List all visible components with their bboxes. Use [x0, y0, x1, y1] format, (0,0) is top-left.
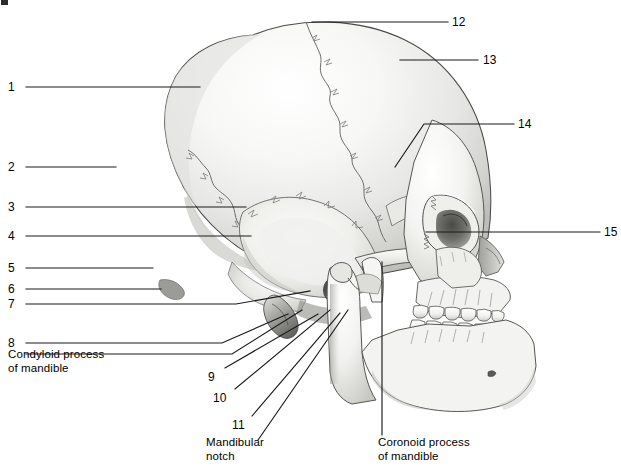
label-7[interactable]: 7 [8, 298, 15, 312]
coronoid-process-label: Coronoid processof mandible [378, 436, 470, 463]
condyloid-process-label: Condyloid processof mandible [8, 348, 104, 375]
label-1[interactable]: 1 [8, 81, 15, 95]
mandibular-notch-label-line-2: notch [206, 450, 264, 464]
label-5[interactable]: 5 [8, 262, 15, 276]
label-12[interactable]: 12 [452, 16, 466, 30]
skull-labeling-figure: 123456789101112131415Condyloid processof… [0, 0, 621, 473]
condyloid-process-label-line-1: Condyloid process [8, 348, 104, 362]
mandibular-notch-label-line-1: Mandibular [206, 436, 264, 450]
condyloid-process-label-line-2: of mandible [8, 362, 104, 376]
label-15[interactable]: 15 [604, 226, 618, 240]
label-2[interactable]: 2 [8, 161, 15, 175]
label-14[interactable]: 14 [518, 118, 532, 132]
label-11[interactable]: 11 [232, 419, 245, 433]
label-6[interactable]: 6 [8, 283, 15, 297]
label-3[interactable]: 3 [8, 201, 15, 215]
label-13[interactable]: 13 [483, 54, 497, 68]
skull-illustration [0, 0, 621, 473]
mandibular-notch-label: Mandibularnotch [206, 436, 264, 463]
coronoid-process-label-line-2: of mandible [378, 450, 470, 464]
label-10[interactable]: 10 [213, 392, 227, 406]
coronoid-process-label-line-1: Coronoid process [378, 436, 470, 450]
label-9[interactable]: 9 [208, 371, 215, 385]
label-4[interactable]: 4 [8, 230, 15, 244]
